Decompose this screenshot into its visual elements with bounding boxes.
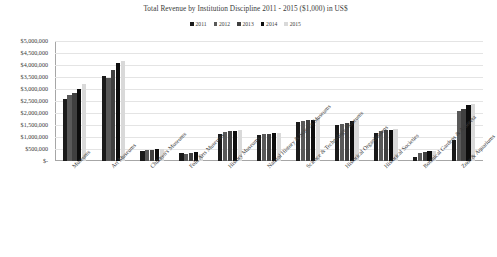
x-axis-category-labels: MuseumsArt MuseumsChildren's MuseumsFolk… [55, 161, 483, 257]
legend-swatch-icon [190, 22, 193, 25]
legend-label: 2015 [290, 21, 301, 27]
bar-2011[interactable] [140, 151, 144, 161]
bar-2012[interactable] [67, 95, 71, 161]
bar-2012[interactable] [145, 150, 149, 161]
bar-2013[interactable] [72, 93, 76, 161]
y-tick-label: $3,500,000 [21, 74, 48, 80]
y-tick-label: $4,000,000 [21, 62, 48, 68]
legend-label: 2011 [196, 21, 207, 27]
legend-item-2014[interactable]: 2014 [261, 21, 278, 27]
y-tick-label: $2,500,000 [21, 98, 48, 104]
bar-group [94, 41, 133, 161]
bar-2012[interactable] [262, 134, 266, 161]
plot-area [55, 41, 483, 161]
bar-2012[interactable] [418, 153, 422, 161]
y-tick-label: $- [43, 158, 48, 164]
legend-swatch-icon [237, 22, 240, 25]
legend-swatch-icon [214, 22, 217, 25]
y-tick-label: $500,000 [25, 146, 48, 152]
y-tick-label: $1,500,000 [21, 122, 48, 128]
y-axis-tick-labels: $5,000,000$4,500,000$4,000,000$3,500,000… [0, 41, 51, 161]
y-tick-label: $4,500,000 [21, 50, 48, 56]
legend-label: 2012 [219, 21, 230, 27]
legend-item-2015[interactable]: 2015 [284, 21, 301, 27]
bar-2013[interactable] [461, 109, 465, 161]
bar-2012[interactable] [106, 78, 110, 161]
y-tick-label: $2,000,000 [21, 110, 48, 116]
bar-2013[interactable] [267, 134, 271, 161]
legend-item-2011[interactable]: 2011 [190, 21, 206, 27]
bar-2013[interactable] [384, 130, 388, 161]
legend-label: 2014 [266, 21, 277, 27]
y-tick-label: $3,000,000 [21, 86, 48, 92]
legend-label: 2013 [243, 21, 254, 27]
bar-2012[interactable] [184, 154, 188, 161]
bar-2015[interactable] [121, 61, 125, 161]
bar-2014[interactable] [466, 105, 470, 161]
legend-swatch-icon [284, 22, 287, 25]
bar-2011[interactable] [63, 99, 67, 161]
bar-group [133, 41, 172, 161]
bar-2011[interactable] [179, 153, 183, 161]
bar-2014[interactable] [116, 63, 120, 161]
y-tick-label: $1,000,000 [21, 134, 48, 140]
bar-2014[interactable] [77, 89, 81, 161]
chart-legend: 20112012201320142015 [0, 21, 491, 27]
bar-2011[interactable] [102, 76, 106, 161]
y-tick-label: $5,000,000 [21, 38, 48, 44]
chart-title: Total Revenue by Institution Discipline … [0, 4, 491, 13]
bar-2013[interactable] [111, 70, 115, 161]
legend-item-2012[interactable]: 2012 [214, 21, 231, 27]
legend-item-2013[interactable]: 2013 [237, 21, 254, 27]
legend-swatch-icon [261, 22, 264, 25]
bar-group [55, 41, 94, 161]
bar-2013[interactable] [228, 131, 232, 161]
